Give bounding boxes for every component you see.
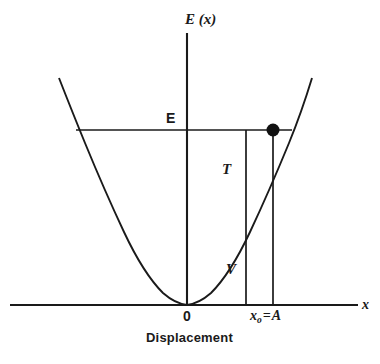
x-axis-label: x [362, 298, 369, 312]
axis-caption: Displacement [146, 331, 233, 344]
potential-energy-label: V [226, 262, 236, 277]
amplitude-label: xo=A [250, 309, 281, 325]
amplitude-equals: = [262, 308, 272, 323]
y-axis-label: E (x) [185, 12, 216, 27]
energy-diagram-figure: E (x) x E T V 0 xo=A Displacement [0, 0, 380, 364]
kinetic-energy-label: T [222, 162, 231, 177]
potential-energy-parabola [59, 78, 312, 305]
origin-label: 0 [183, 309, 191, 323]
amplitude-value: A [272, 308, 281, 323]
total-energy-label: E [166, 111, 175, 125]
turning-point-marker [267, 124, 280, 137]
amplitude-variable: x [250, 308, 257, 323]
